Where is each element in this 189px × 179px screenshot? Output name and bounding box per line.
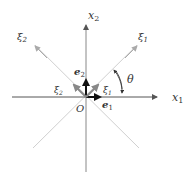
theta-label: θ (127, 73, 134, 86)
x2-label: x2 (88, 9, 99, 23)
e1-label: e1 (102, 99, 113, 112)
xi2-vector (74, 85, 86, 97)
xi2-axis-arrow (35, 46, 47, 58)
xi2-axis-label: ξ2 (17, 31, 28, 44)
xi1-axis-arrow (125, 46, 137, 58)
xi1-vector (86, 85, 98, 97)
coordinate-diagram: x2 x1 ξ2 ξ1 e2 e1 ξ2 ξ1 O θ (0, 0, 189, 179)
e2-label: e2 (74, 66, 85, 79)
xi1-vector-label: ξ1 (103, 85, 112, 96)
theta-arc-reverse (114, 70, 122, 89)
xi2-vector-label: ξ2 (54, 85, 63, 96)
origin-label: O (76, 103, 84, 114)
x1-label: x1 (172, 91, 183, 105)
xi1-axis-label: ξ1 (138, 31, 148, 44)
